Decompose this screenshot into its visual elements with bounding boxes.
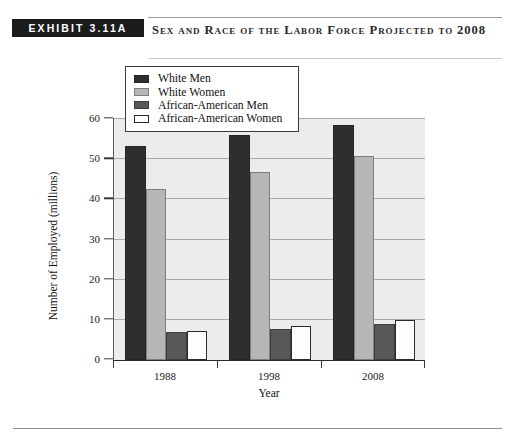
y-tick-mark	[104, 358, 113, 359]
bar	[374, 324, 395, 360]
bar	[187, 331, 208, 360]
y-tick-label: 20	[89, 273, 100, 285]
y-tick-mark	[104, 157, 113, 158]
exhibit-title: Sex and Race of the Labor Force Projecte…	[152, 22, 502, 38]
bar-chart: 0102030405060 Number of Employed (millio…	[0, 62, 513, 407]
legend-label: African-American Men	[158, 99, 268, 112]
chart-legend: White MenWhite WomenAfrican-American Men…	[125, 66, 299, 132]
y-tick-label: 50	[89, 152, 100, 164]
legend-swatch	[134, 88, 149, 96]
legend-label: African-American Women	[158, 112, 282, 125]
x-axis-label: Year	[113, 387, 425, 399]
y-tick-mark	[104, 117, 113, 118]
bar	[354, 156, 375, 360]
legend-item: White Women	[134, 85, 282, 98]
bar	[229, 135, 250, 360]
legend-swatch	[134, 101, 149, 109]
y-tick-mark	[104, 318, 113, 319]
legend-swatch	[134, 75, 149, 83]
bar	[250, 172, 271, 360]
x-tick-mark	[217, 361, 218, 368]
y-axis: 0102030405060	[60, 118, 113, 361]
bar	[270, 329, 291, 360]
legend-item: African-American Women	[134, 112, 282, 125]
x-tick-label: 1998	[258, 370, 280, 382]
exhibit-badge: EXHIBIT 3.11A	[12, 19, 144, 37]
x-tick-mark	[424, 361, 425, 368]
legend-item: White Men	[134, 72, 282, 85]
y-tick-label: 0	[95, 353, 101, 365]
y-tick-mark	[104, 238, 113, 239]
x-tick-mark	[321, 361, 322, 368]
gridline	[114, 158, 425, 159]
y-tick-mark	[104, 198, 113, 199]
y-axis-label: Number of Employed (millions)	[47, 131, 59, 361]
legend-item: African-American Men	[134, 99, 282, 112]
y-tick-label: 10	[89, 313, 100, 325]
bar	[146, 189, 167, 361]
y-tick-label: 60	[89, 112, 100, 124]
title-rule-bottom	[148, 58, 502, 59]
title-rule-top	[148, 17, 502, 18]
legend-label: White Women	[158, 86, 225, 99]
footer-rule	[13, 428, 502, 429]
bar	[166, 332, 187, 360]
y-tick-mark	[104, 278, 113, 279]
y-tick-label: 40	[89, 192, 100, 204]
bar	[395, 320, 416, 360]
x-tick-label: 2008	[362, 370, 384, 382]
bar	[333, 125, 354, 360]
exhibit-header: EXHIBIT 3.11A Sex and Race of the Labor …	[0, 0, 513, 62]
bar	[125, 146, 146, 360]
x-tick-label: 1988	[154, 370, 176, 382]
bar	[291, 326, 312, 360]
legend-swatch	[134, 115, 149, 123]
y-tick-label: 30	[89, 233, 100, 245]
x-tick-mark	[113, 361, 114, 368]
plot-area	[113, 118, 425, 361]
legend-label: White Men	[158, 72, 211, 85]
